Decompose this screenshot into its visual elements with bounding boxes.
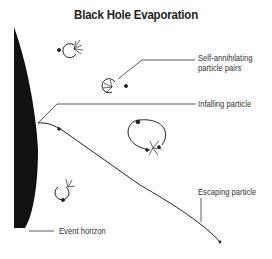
black-hole-shape [14, 27, 38, 228]
label-event-horizon: Event horizon [59, 226, 106, 236]
particle-pair-icon [55, 179, 75, 202]
label-escaping: Escaping particle [198, 187, 256, 197]
diagram: Black Hole Evaporation [0, 0, 272, 259]
diagram-canvas [0, 0, 272, 259]
particle-pair-icon [58, 40, 84, 58]
label-pairs-line1: Self-annihilating [198, 53, 252, 63]
label-infalling: Infalling particle [198, 99, 251, 109]
particle-pair-icon [128, 120, 166, 155]
particle-pair-icon [102, 79, 127, 93]
escaping-trajectory [38, 123, 220, 242]
label-pairs-line2: particle pairs [198, 63, 241, 73]
